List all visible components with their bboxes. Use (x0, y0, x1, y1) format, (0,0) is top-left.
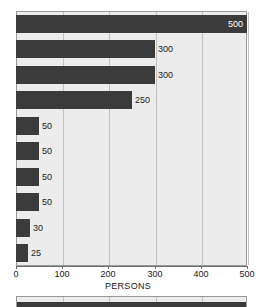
bar[interactable] (16, 91, 132, 109)
bar[interactable] (16, 244, 28, 262)
x-tick-label-400: 400 (193, 270, 208, 279)
bar-value-label: 50 (42, 122, 52, 131)
bar-row[interactable]: 50 (16, 168, 247, 186)
x-tick-label-300: 300 (147, 270, 162, 279)
x-tick-label-500: 500 (239, 270, 254, 279)
x-tick-label-100: 100 (54, 270, 69, 279)
bar[interactable] (16, 142, 39, 160)
bar[interactable] (16, 168, 39, 186)
x-tick-label-0: 0 (13, 270, 18, 279)
bar-value-label: 30 (33, 224, 43, 233)
secondary-bar-chart-cropped (16, 296, 247, 307)
bar-value-label: 300 (158, 71, 173, 80)
bar-row[interactable]: 50 (16, 117, 247, 135)
bar-row[interactable]: 500 (16, 15, 247, 33)
bar[interactable] (16, 66, 155, 84)
bar-row[interactable]: 25 (16, 244, 247, 262)
bar-chart-persons: 500300300250505050503025 010020030040050… (0, 0, 256, 296)
secondary-bar[interactable] (17, 302, 247, 307)
bar[interactable] (16, 193, 39, 211)
bar-value-label: 500 (228, 20, 243, 29)
bar[interactable] (16, 15, 247, 33)
bar-row[interactable]: 50 (16, 142, 247, 160)
x-axis-line (16, 266, 247, 267)
bar-row[interactable]: 300 (16, 40, 247, 58)
bar[interactable] (16, 219, 30, 237)
x-tick-label-200: 200 (100, 270, 115, 279)
bar-value-label: 50 (42, 198, 52, 207)
bar-value-label: 250 (135, 96, 150, 105)
bar-row[interactable]: 250 (16, 91, 247, 109)
bar[interactable] (16, 40, 155, 58)
bar-value-label: 300 (158, 45, 173, 54)
bar-value-label: 25 (31, 249, 41, 258)
bar-value-label: 50 (42, 173, 52, 182)
bar-row[interactable]: 30 (16, 219, 247, 237)
bars-container: 500300300250505050503025 (16, 11, 247, 266)
x-axis-title: PERSONS (0, 282, 256, 291)
bar-row[interactable]: 50 (16, 193, 247, 211)
bar-value-label: 50 (42, 147, 52, 156)
bar-row[interactable]: 300 (16, 66, 247, 84)
gridline-500 (248, 12, 249, 265)
bar[interactable] (16, 117, 39, 135)
